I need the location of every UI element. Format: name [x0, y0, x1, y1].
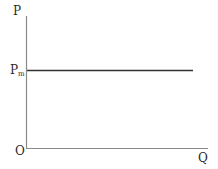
diagram-canvas — [0, 0, 218, 169]
origin-label: O — [15, 145, 25, 157]
x-axis-label: Q — [198, 152, 208, 164]
price-line-label-main: P — [10, 63, 18, 77]
y-axis-label: P — [13, 5, 21, 17]
price-line-label-sub: m — [18, 70, 25, 78]
price-line-label: Pm — [10, 64, 25, 78]
